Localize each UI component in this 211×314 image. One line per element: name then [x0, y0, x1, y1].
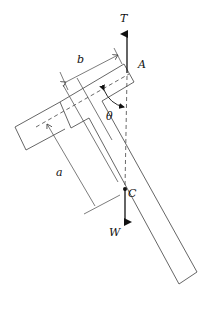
t-body-diagram: b a T A θ C W	[0, 0, 211, 314]
label-w: W	[109, 226, 122, 239]
label-theta: θ	[106, 110, 113, 123]
label-a-pivot: A	[137, 58, 146, 71]
t-body-outline	[15, 64, 197, 284]
label-c: C	[128, 187, 137, 200]
label-t: T	[120, 12, 129, 25]
stem-inner-lines	[63, 78, 118, 182]
label-b: b	[77, 53, 84, 66]
label-a: a	[56, 166, 63, 179]
vertical-dashed-line	[125, 76, 127, 188]
